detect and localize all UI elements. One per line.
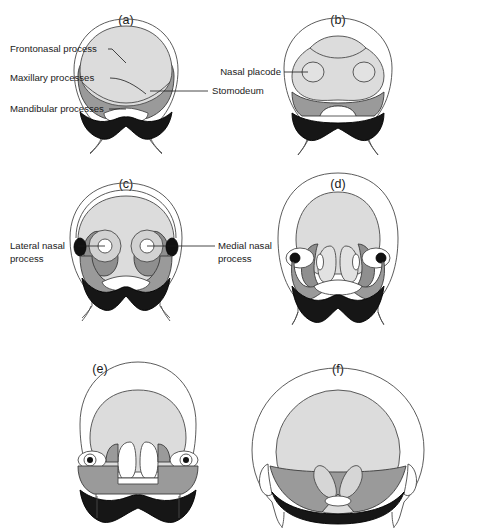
annotation-stomodeum-a: Stomodeum [212,85,264,96]
annotation-maxillary-processes-a: Maxillary processes [10,72,94,83]
panel-a-label: (a) [118,13,133,27]
nasal-placode-right-b [353,62,375,82]
annotation-frontonasal-process-a: Frontonasal process [10,43,97,54]
annotation-lateral-nasal-line1-c: Lateral nasal [10,240,65,251]
annotation-nasal-placode-b: Nasal placode [220,66,281,77]
stomodeum-f [325,496,351,506]
medial-nasal-process-right-e [140,442,158,480]
pupil-right-d [376,253,386,263]
annotation-lateral-nasal-line2-c: process [10,253,44,264]
frontonasal-process-a [80,26,172,106]
panel-d-label: (d) [330,177,345,191]
eye-left-c [74,238,86,256]
eye-right-c [166,238,178,256]
nasal-pit-left-d [317,254,324,270]
medial-nasal-process-left-e [118,442,136,480]
nasal-pit-right-d [353,254,360,270]
figure-container: (a) Frontonasal process Maxillary proces… [0,0,483,529]
pupil-right-e [183,457,189,463]
pupil-left-e [87,457,93,463]
panel-c-label: (c) [119,177,134,191]
pupil-left-d [290,253,300,263]
panel-b-label: (b) [330,13,345,27]
face-development-diagram: (a) Frontonasal process Maxillary proces… [0,0,483,529]
stomodeum-e [118,478,158,484]
panel-f-label: (f) [332,362,344,376]
annotation-medial-nasal-line2-c: process [218,253,252,264]
annotation-mandibular-processes-a: Mandibular processes [10,103,104,114]
panel-e-label: (e) [92,362,107,376]
annotation-medial-nasal-line1-c: Medial nasal [218,240,272,251]
